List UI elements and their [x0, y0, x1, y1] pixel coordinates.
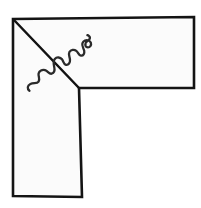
figure-canvas [0, 0, 201, 208]
l-shape-line-drawing [0, 0, 201, 208]
l-shape-outline [13, 17, 194, 197]
